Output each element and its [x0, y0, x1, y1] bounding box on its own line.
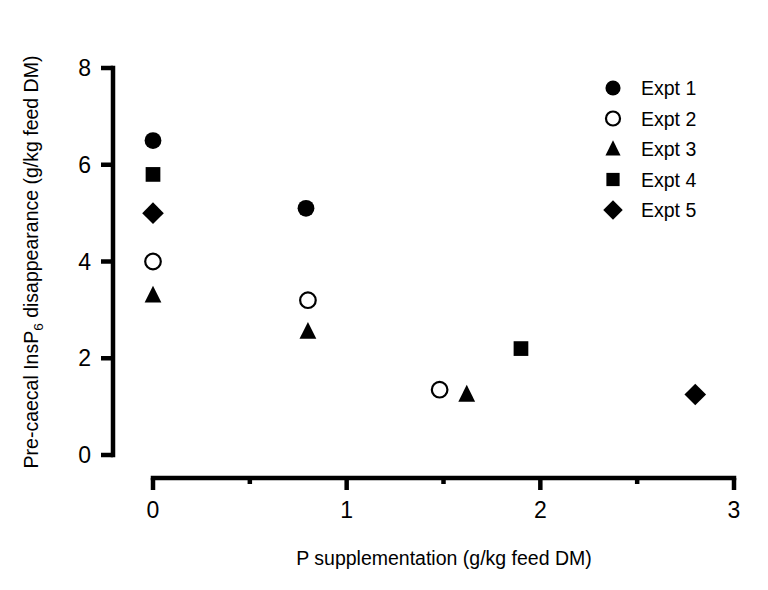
legend-entry-expt-3[interactable]: Expt 3 [605, 138, 696, 160]
y-axis-tick-labels: 02468 [78, 55, 91, 468]
data-point-square-filled [514, 341, 529, 356]
data-point-triangle-filled [145, 286, 162, 303]
legend-marker-square-filled [606, 173, 619, 186]
legend-marker-circle-open [606, 111, 620, 125]
series-expt-2 [145, 254, 447, 398]
legend-entry-expt-2[interactable]: Expt 2 [606, 108, 696, 130]
y-axis-tick-label: 8 [78, 55, 91, 81]
legend-entry-label: Expt 5 [641, 199, 696, 221]
legend-entry-label: Expt 1 [641, 77, 696, 99]
legend-marker-triangle-filled [605, 140, 620, 155]
legend-entry-label: Expt 3 [641, 138, 696, 160]
x-axis-tick-labels: 0123 [147, 497, 741, 523]
plot-canvas: 02468 0123 Expt 1Expt 2Expt 3Expt 4Expt … [0, 0, 768, 590]
y-axis-tick-label: 2 [78, 345, 91, 371]
legend-entry-expt-4[interactable]: Expt 4 [606, 169, 696, 191]
legend: Expt 1Expt 2Expt 3Expt 4Expt 5 [603, 77, 696, 221]
legend-marker-circle-filled [605, 80, 620, 95]
y-axis [101, 68, 113, 455]
series-expt-5 [142, 202, 706, 405]
series-expt-4 [146, 167, 529, 356]
data-point-circle-filled [298, 200, 315, 217]
data-point-triangle-filled [300, 322, 317, 339]
data-point-triangle-filled [458, 385, 475, 402]
data-points-layer [142, 132, 706, 405]
x-axis-tick-label: 0 [147, 497, 160, 523]
data-point-square-filled [146, 167, 161, 182]
y-axis-title: Pre-caecal InsP6 disappearance (g/kg fee… [20, 56, 46, 469]
legend-marker-diamond-filled [603, 200, 622, 219]
data-point-circle-open [300, 292, 316, 308]
series-expt-1 [145, 132, 315, 217]
x-axis-title: P supplementation (g/kg feed DM) [296, 547, 592, 569]
legend-entry-label: Expt 4 [641, 169, 696, 191]
x-axis-tick-label: 3 [728, 497, 741, 523]
data-point-diamond-filled [684, 384, 706, 406]
x-axis-tick-label: 2 [534, 497, 547, 523]
x-axis [153, 478, 734, 490]
x-axis-tick-label: 1 [340, 497, 353, 523]
data-point-circle-open [432, 382, 448, 398]
scatter-plot-figure: 02468 0123 Expt 1Expt 2Expt 3Expt 4Expt … [0, 0, 768, 590]
legend-entry-label: Expt 2 [641, 108, 696, 130]
legend-entry-expt-1[interactable]: Expt 1 [605, 77, 696, 99]
y-axis-tick-label: 4 [78, 249, 91, 275]
data-point-diamond-filled [142, 202, 164, 224]
data-point-circle-open [145, 254, 161, 270]
legend-entry-expt-5[interactable]: Expt 5 [603, 199, 696, 221]
data-point-circle-filled [145, 132, 162, 149]
y-axis-tick-label: 6 [78, 152, 91, 178]
y-axis-tick-label: 0 [78, 442, 91, 468]
